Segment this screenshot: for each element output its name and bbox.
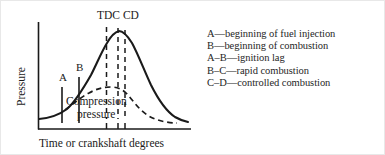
legend: A—beginning of fuel injection B—beginnin… (207, 28, 382, 89)
marker-label-b: B (76, 61, 83, 73)
legend-item-ab: A–B—ignition lag (207, 52, 382, 64)
legend-item-bc: B–C—rapid combustion (207, 65, 382, 77)
legend-item-b: B—beginning of combustion (207, 40, 382, 52)
marker-label-a: A (59, 71, 67, 83)
y-axis-label: Pressure (15, 67, 27, 106)
x-axis-label: Time or crankshaft degrees (39, 137, 165, 150)
tdc-cd-label: TDC CD (97, 9, 139, 21)
legend-item-a: A—beginning of fuel injection (207, 28, 382, 40)
compression-annotation-line1: Compression (66, 95, 127, 108)
legend-item-cd: C–D—controlled combustion (207, 77, 382, 89)
compression-annotation-line2: pressure (77, 108, 115, 121)
figure-container: A B TDC CD Compression pressure Pressure… (0, 0, 385, 155)
